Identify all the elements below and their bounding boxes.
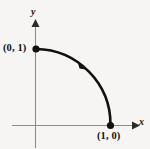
- y-axis-label: y: [31, 7, 35, 17]
- plot-canvas: [0, 0, 150, 149]
- point-label-1-0: (1, 0): [97, 131, 120, 142]
- quarter-circle-curve: [36, 49, 111, 125]
- math-figure: (0, 1) (1, 0) x y: [0, 0, 150, 149]
- x-axis-label: x: [139, 117, 144, 127]
- point-marker-1-0: [107, 122, 114, 129]
- point-label-0-1: (0, 1): [3, 43, 26, 54]
- point-marker-0-1: [32, 45, 39, 52]
- y-axis-arrowhead-icon: [32, 19, 40, 27]
